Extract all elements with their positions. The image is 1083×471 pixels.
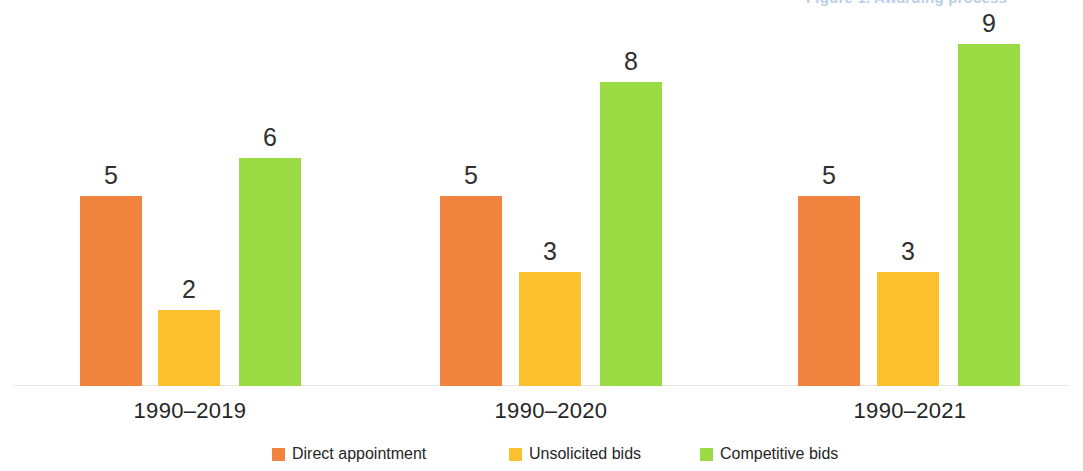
bar-chart: Figure 1. Awarding process 526538539 199…	[0, 0, 1083, 471]
bar-fill	[519, 272, 581, 386]
bar-value-label: 2	[182, 275, 196, 304]
bar-fill	[877, 272, 939, 386]
bar-fill	[958, 44, 1020, 386]
legend-swatch-icon	[272, 448, 285, 461]
bar-value-label: 9	[982, 9, 996, 38]
legend-swatch-icon	[509, 448, 522, 461]
bar-value-label: 5	[464, 161, 478, 190]
plot-area: 526538539	[0, 0, 1083, 386]
bar-value-label: 6	[263, 123, 277, 152]
bar-value-label: 8	[624, 47, 638, 76]
bar-fill	[440, 196, 502, 386]
bar-value-label: 5	[104, 161, 118, 190]
bar: 8	[600, 82, 662, 386]
bar-value-label: 3	[901, 237, 915, 266]
legend-item[interactable]: Unsolicited bids	[509, 446, 641, 462]
legend-swatch-icon	[700, 448, 713, 461]
bar: 3	[877, 272, 939, 386]
legend-label: Direct appointment	[292, 446, 426, 462]
bar-fill	[239, 158, 301, 386]
legend-label: Unsolicited bids	[529, 446, 641, 462]
x-axis-label: 1990–2020	[495, 398, 608, 424]
bar: 5	[440, 196, 502, 386]
bar-fill	[80, 196, 142, 386]
x-axis-label: 1990–2021	[854, 398, 967, 424]
legend-item[interactable]: Competitive bids	[700, 446, 838, 462]
bar-fill	[798, 196, 860, 386]
bar: 5	[80, 196, 142, 386]
bar: 9	[958, 44, 1020, 386]
legend-item[interactable]: Direct appointment	[272, 446, 426, 462]
bar-value-label: 5	[822, 161, 836, 190]
bar: 2	[158, 310, 220, 386]
x-axis-label: 1990–2019	[134, 398, 247, 424]
bar-value-label: 3	[543, 237, 557, 266]
chart-legend: Direct appointmentUnsolicited bidsCompet…	[0, 446, 1083, 471]
bar-fill	[158, 310, 220, 386]
bar-fill	[600, 82, 662, 386]
bar: 3	[519, 272, 581, 386]
bar: 6	[239, 158, 301, 386]
legend-label: Competitive bids	[720, 446, 838, 462]
bar: 5	[798, 196, 860, 386]
